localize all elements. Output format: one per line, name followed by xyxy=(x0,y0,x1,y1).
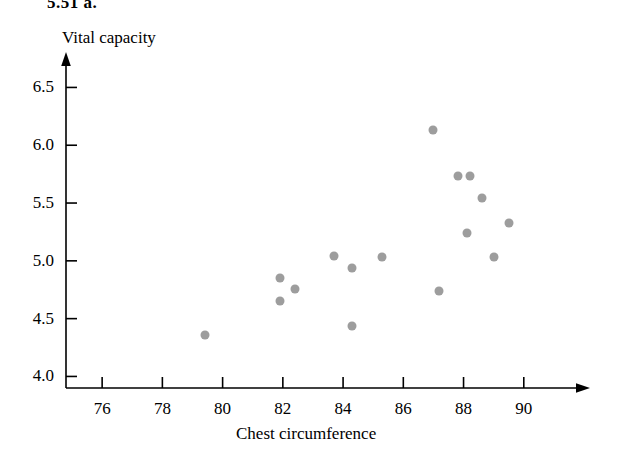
data-point xyxy=(504,218,513,227)
y-tick-label: 4.5 xyxy=(12,310,54,327)
y-tick-label: 6.5 xyxy=(12,78,54,95)
x-axis-ticks xyxy=(102,377,524,388)
x-tick-label: 84 xyxy=(323,400,363,417)
x-axis-arrowhead xyxy=(576,383,590,393)
data-point xyxy=(348,321,357,330)
data-point xyxy=(330,252,339,261)
x-tick-label: 78 xyxy=(142,400,182,417)
x-tick-label: 82 xyxy=(263,400,303,417)
y-axis-arrowhead xyxy=(61,52,71,66)
data-point xyxy=(348,263,357,272)
x-tick-label: 86 xyxy=(383,400,423,417)
data-point xyxy=(465,172,474,181)
x-tick-label: 90 xyxy=(504,400,544,417)
axis-lines xyxy=(0,0,617,452)
x-tick-label: 88 xyxy=(444,400,484,417)
data-point xyxy=(275,274,284,283)
data-point xyxy=(378,253,387,262)
data-point xyxy=(435,286,444,295)
scatter-plot: Vital capacity Chest circumference 4.04.… xyxy=(0,0,617,452)
y-tick-label: 5.5 xyxy=(12,194,54,211)
y-tick-label: 6.0 xyxy=(12,136,54,153)
data-point xyxy=(462,229,471,238)
x-tick-label: 76 xyxy=(82,400,122,417)
data-point xyxy=(290,284,299,293)
data-point xyxy=(489,253,498,262)
y-tick-label: 5.0 xyxy=(12,252,54,269)
data-point xyxy=(200,330,209,339)
data-point xyxy=(429,126,438,135)
data-point xyxy=(453,172,462,181)
data-point xyxy=(477,194,486,203)
x-tick-label: 80 xyxy=(203,400,243,417)
y-tick-label: 4.0 xyxy=(12,367,54,384)
data-point xyxy=(275,297,284,306)
y-axis-ticks xyxy=(66,87,77,376)
